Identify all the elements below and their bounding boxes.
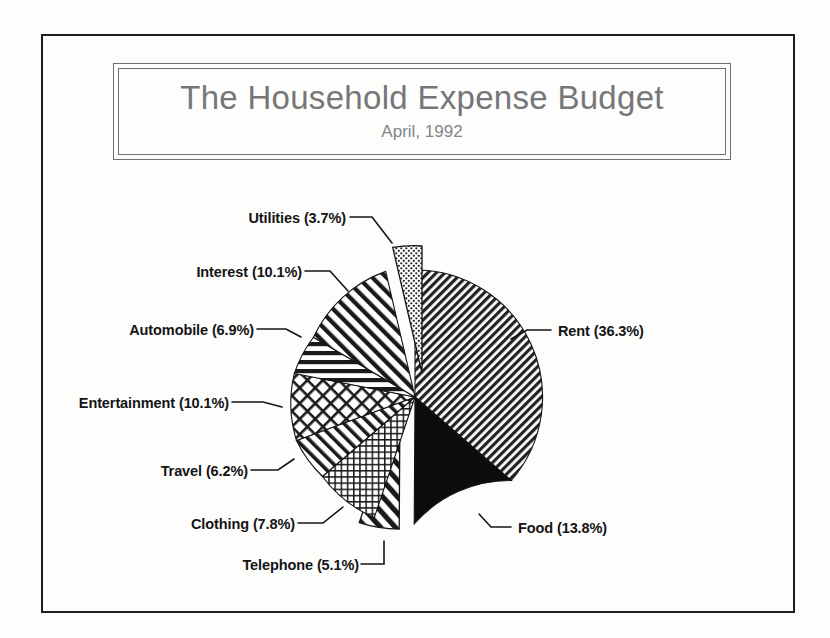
- leader-line-entertainment: [232, 402, 282, 407]
- pie-label-travel: Travel (6.2%): [161, 463, 248, 479]
- pie-label-food: Food (13.8%): [518, 520, 607, 536]
- pie-label-entertainment: Entertainment (10.1%): [79, 395, 229, 411]
- leader-line-automobile: [257, 329, 301, 337]
- pie-label-rent: Rent (36.3%): [558, 323, 644, 339]
- leader-line-telephone: [361, 541, 384, 564]
- pie-label-telephone: Telephone (5.1%): [242, 557, 359, 573]
- screenshot-root: The Household Expense Budget April, 1992: [0, 0, 830, 638]
- page-frame: The Household Expense Budget April, 1992: [41, 34, 795, 613]
- leader-line-clothing: [298, 507, 343, 523]
- leader-line-interest: [305, 271, 348, 291]
- leader-line-travel: [251, 459, 294, 470]
- pie-label-interest: Interest (10.1%): [196, 264, 302, 280]
- leader-line-food: [479, 514, 511, 527]
- leader-line-utilities: [350, 217, 392, 243]
- pie-label-automobile: Automobile (6.9%): [129, 322, 254, 338]
- pie-label-clothing: Clothing (7.8%): [191, 516, 295, 532]
- pie-chart: Utilities (3.7%) Interest (10.1%) Automo…: [43, 36, 797, 615]
- pie-label-utilities: Utilities (3.7%): [248, 210, 346, 226]
